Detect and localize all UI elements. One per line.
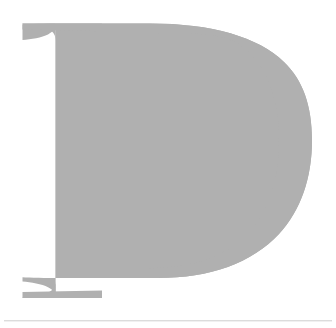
horizontal-divider-shadow bbox=[4, 321, 332, 322]
dropcap-letter-d-glyph bbox=[0, 0, 336, 310]
page-canvas: D bbox=[0, 0, 336, 328]
dropcap-block: D bbox=[0, 0, 336, 310]
